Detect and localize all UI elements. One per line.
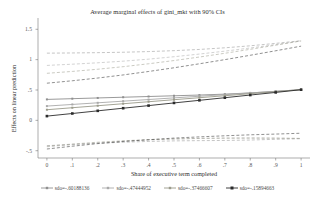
y-tick-label: 1 <box>16 56 32 62</box>
legend-item-label: sdo=-.37466607 <box>178 185 213 191</box>
series-marker-1 <box>71 103 73 105</box>
series-marker-3 <box>122 107 125 110</box>
series-marker-3 <box>198 99 201 102</box>
series-marker-1 <box>122 100 124 102</box>
series-marker-3 <box>147 104 150 107</box>
chart-legend: sdo=-.60188136sdo=-.47444952sdo=-.374666… <box>0 185 315 191</box>
y-tick-label: 1.5 <box>16 26 32 32</box>
series-marker-2 <box>97 105 99 107</box>
series-marker-3 <box>249 94 252 97</box>
chart-container: Average marginal effects of gini_mkt wit… <box>0 0 315 205</box>
legend-marker-icon <box>102 185 114 191</box>
series-marker-3 <box>173 102 176 105</box>
series-marker-3 <box>274 91 277 94</box>
x-tick-label: .1 <box>65 162 79 168</box>
legend-item-0[interactable]: sdo=-.60188136 <box>41 185 90 191</box>
series-marker-2 <box>46 109 48 111</box>
y-tick-label: 0 <box>16 117 32 123</box>
series-marker-3 <box>46 115 49 118</box>
legend-marker-icon <box>164 185 176 191</box>
legend-item-label: sdo=-.15894663 <box>240 185 275 191</box>
series-marker-1 <box>173 97 175 99</box>
x-tick-label: .6 <box>192 162 206 168</box>
legend-item-3[interactable]: sdo=-.15894663 <box>226 185 275 191</box>
x-tick-label: .3 <box>116 162 130 168</box>
series-marker-2 <box>198 97 200 99</box>
series-marker-1 <box>97 102 99 104</box>
x-tick-label: 1 <box>294 162 308 168</box>
series-marker-0 <box>122 96 124 98</box>
series-marker-2 <box>122 103 124 105</box>
x-tick-label: .4 <box>142 162 156 168</box>
series-marker-0 <box>173 95 175 97</box>
series-marker-1 <box>148 99 150 101</box>
ci-band-line-0 <box>47 139 301 146</box>
legend-item-2[interactable]: sdo=-.37466607 <box>164 185 213 191</box>
ci-band-line-1 <box>47 138 301 147</box>
series-marker-3 <box>71 112 74 115</box>
legend-marker-icon <box>226 185 238 191</box>
legend-item-label: sdo=-.47444952 <box>116 185 151 191</box>
y-tick-label: .5 <box>16 87 32 93</box>
legend-marker-icon <box>41 185 53 191</box>
x-tick-label: .8 <box>243 162 257 168</box>
series-marker-3 <box>96 110 99 113</box>
series-marker-2 <box>71 107 73 109</box>
legend-item-1[interactable]: sdo=-.47444952 <box>102 185 151 191</box>
series-marker-0 <box>148 95 150 97</box>
series-marker-2 <box>224 95 226 97</box>
x-tick-label: .7 <box>218 162 232 168</box>
y-tick-label: -.5 <box>16 148 32 154</box>
series-marker-2 <box>173 99 175 101</box>
series-marker-3 <box>224 96 227 99</box>
x-tick-label: .5 <box>167 162 181 168</box>
series-marker-0 <box>46 98 48 100</box>
series-marker-2 <box>148 101 150 103</box>
series-marker-1 <box>46 105 48 107</box>
x-tick-label: 0 <box>40 162 54 168</box>
series-marker-0 <box>97 97 99 99</box>
ci-band-line-2 <box>47 41 301 73</box>
series-marker-3 <box>300 88 303 91</box>
ci-band-line-3 <box>47 46 301 83</box>
series-marker-0 <box>71 98 73 100</box>
legend-item-label: sdo=-.60188136 <box>55 185 90 191</box>
x-axis-title: Share of executive term completed <box>38 170 310 177</box>
x-tick-label: .9 <box>269 162 283 168</box>
x-tick-label: .2 <box>91 162 105 168</box>
